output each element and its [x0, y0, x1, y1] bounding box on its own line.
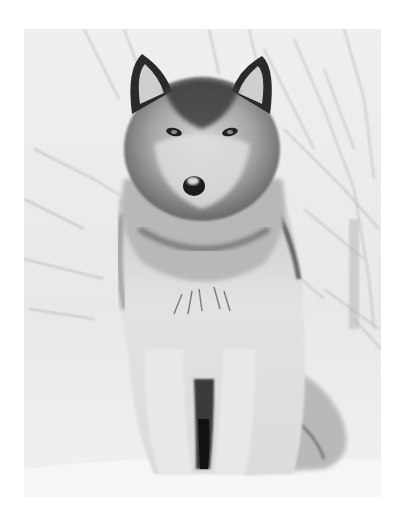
wolf-photo	[24, 29, 381, 497]
wolf-photo-graphic	[24, 29, 381, 497]
